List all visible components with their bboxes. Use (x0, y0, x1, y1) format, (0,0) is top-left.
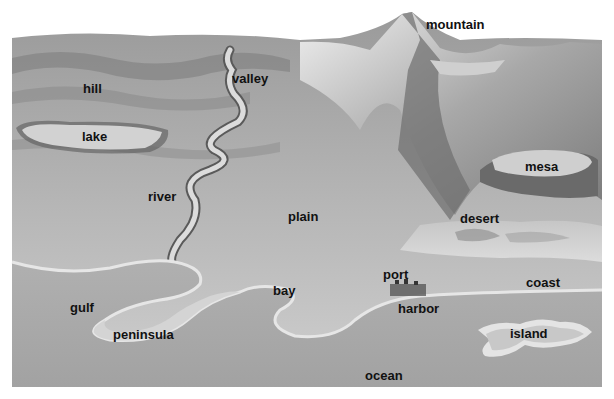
label-mountain: mountain (426, 18, 485, 31)
label-coast: coast (526, 276, 560, 289)
label-island: island (510, 327, 548, 340)
label-port: port (383, 268, 408, 281)
label-harbor: harbor (398, 302, 439, 315)
label-plain: plain (288, 210, 318, 223)
label-river: river (148, 190, 176, 203)
label-ocean: ocean (365, 369, 403, 382)
label-gulf: gulf (70, 301, 94, 314)
label-desert: desert (460, 212, 499, 225)
label-lake: lake (82, 130, 107, 143)
label-bay: bay (273, 284, 295, 297)
label-hill: hill (83, 82, 102, 95)
label-valley: valley (232, 72, 268, 85)
label-mesa: mesa (525, 160, 558, 173)
label-peninsula: peninsula (113, 328, 174, 341)
